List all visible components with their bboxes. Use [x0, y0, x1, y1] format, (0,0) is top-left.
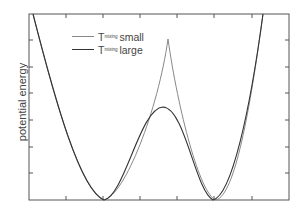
plot-frame [29, 14, 289, 200]
y-axis-label: potential energy [16, 52, 28, 152]
legend: Tmixingsmall Tmixinglarge [72, 30, 144, 56]
legend-swatch-small [72, 36, 94, 37]
legend-swatch-large [72, 49, 94, 50]
series-tmixing-small [33, 14, 263, 200]
series-tmixing-large [33, 14, 263, 200]
legend-item-large: Tmixinglarge [72, 43, 144, 56]
legend-item-small: Tmixingsmall [72, 30, 144, 43]
potential-energy-plot [0, 0, 304, 207]
axis-ticks [29, 14, 289, 200]
